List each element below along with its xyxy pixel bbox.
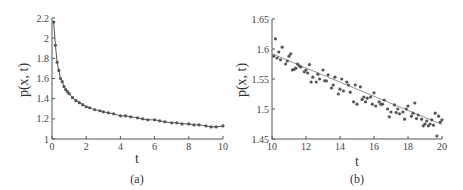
data-point [374, 104, 377, 107]
data-point [349, 91, 352, 94]
data-point [112, 112, 115, 115]
series-line [54, 22, 223, 127]
chart-b: 101214161820 1.451.51.551.61.65 t p(x, t… [234, 14, 447, 187]
data-point [342, 89, 345, 92]
data-point [315, 80, 318, 83]
data-point [415, 117, 418, 120]
data-point [440, 118, 443, 121]
x-tick-label: 6 [152, 141, 157, 152]
data-point [352, 100, 355, 103]
data-point [369, 95, 372, 98]
data-point [364, 100, 367, 103]
data-point [102, 110, 105, 113]
data-point [221, 124, 224, 127]
data-point [158, 119, 161, 122]
data-point [401, 110, 404, 113]
y-tick-label: 1.6 [37, 73, 50, 84]
data-point [88, 106, 91, 109]
data-point [54, 44, 57, 47]
data-point [272, 55, 275, 58]
x-tick-label: 14 [335, 141, 345, 152]
data-point [141, 117, 144, 120]
data-point [386, 107, 389, 110]
data-point [289, 52, 292, 55]
x-tick-label: 16 [369, 141, 379, 152]
data-point [359, 85, 362, 88]
data-point [71, 96, 74, 99]
data-point [304, 68, 307, 71]
data-point [410, 115, 413, 118]
chart-b-y-ticks: 1.451.51.551.61.65 [252, 14, 276, 145]
y-tick-label: 1.6 [257, 44, 270, 55]
data-point [437, 115, 440, 118]
data-point [308, 63, 311, 66]
data-point [78, 101, 81, 104]
data-point [406, 104, 409, 107]
data-point [388, 115, 391, 118]
y-tick-label: 1.65 [252, 14, 270, 25]
chart-a: 0246810 11.21.41.61.822.2 t p(x, t) (a) [16, 13, 228, 187]
x-tick-label: 0 [50, 141, 55, 152]
data-point [347, 83, 350, 86]
data-point [192, 123, 195, 126]
data-point [98, 109, 101, 112]
data-point [294, 67, 297, 70]
data-point [420, 118, 423, 121]
data-point [277, 50, 280, 53]
x-tick-label: 18 [403, 141, 413, 152]
y-tick-label: 2.2 [37, 13, 50, 24]
x-tick-label: 10 [218, 141, 228, 152]
data-point [276, 56, 279, 59]
data-point [209, 125, 212, 128]
data-point [62, 85, 65, 88]
data-point [362, 95, 365, 98]
data-point [432, 124, 435, 127]
data-point [274, 37, 277, 40]
data-point [56, 61, 59, 64]
data-point [332, 83, 335, 86]
data-point [417, 113, 420, 116]
data-point [163, 120, 166, 123]
x-tick-label: 12 [301, 141, 311, 152]
data-point [338, 88, 341, 91]
data-point [61, 80, 64, 83]
data-point [299, 65, 302, 68]
data-point [316, 73, 319, 76]
data-point [286, 59, 289, 62]
data-point [435, 134, 438, 137]
data-point [398, 112, 401, 115]
data-point [129, 115, 132, 118]
data-point [146, 118, 149, 121]
data-point [340, 77, 343, 80]
data-point [279, 58, 282, 61]
data-point [215, 125, 218, 128]
data-point [59, 77, 62, 80]
data-point [372, 91, 375, 94]
data-point [429, 122, 432, 125]
data-point [284, 62, 287, 65]
y-tick-label: 1.55 [252, 74, 270, 85]
data-point [430, 118, 433, 121]
data-point [170, 121, 173, 124]
data-point [119, 114, 122, 117]
data-point [107, 111, 110, 114]
data-point [180, 122, 183, 125]
data-point [330, 86, 333, 89]
data-point [383, 98, 386, 101]
data-point [311, 76, 314, 79]
chart-a-y-label: p(x, t) [16, 63, 32, 98]
y-tick-label: 1.5 [257, 104, 270, 115]
data-point [57, 69, 60, 72]
data-point [354, 83, 357, 86]
chart-a-x-ticks: 0246810 [50, 136, 229, 152]
y-tick-label: 1.2 [37, 113, 50, 124]
chart-a-caption: (a) [130, 172, 143, 186]
data-point [81, 103, 84, 106]
data-point [85, 105, 88, 108]
data-point [136, 116, 139, 119]
y-tick-label: 1.8 [37, 53, 50, 64]
data-point [403, 118, 406, 121]
data-point [425, 119, 428, 122]
x-tick-label: 4 [118, 141, 123, 152]
y-tick-label: 1.45 [252, 134, 270, 145]
